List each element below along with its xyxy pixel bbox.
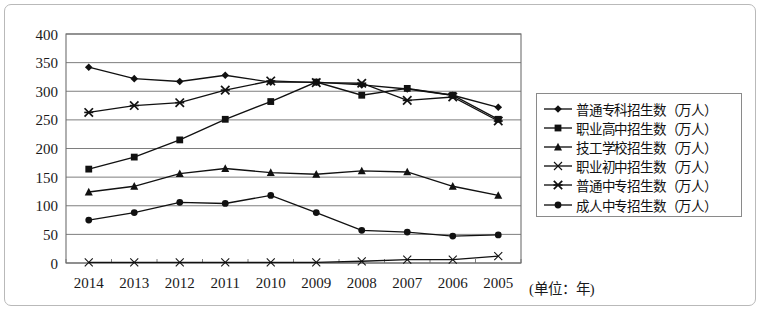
marker-circle	[313, 209, 320, 216]
legend-item-label: 成人中专招生数（万人）	[576, 195, 717, 215]
legend-item-2[interactable]: 职业高中招生数（万人）	[543, 118, 737, 137]
legend-marker-square-icon	[543, 121, 573, 135]
marker-square	[404, 85, 411, 92]
marker-square	[555, 124, 562, 131]
marker-square	[222, 116, 229, 123]
marker-square	[85, 166, 92, 173]
legend-marker-asterisk-icon	[543, 178, 573, 192]
y-tick-label: 150	[36, 170, 59, 186]
x-tick-label: 2009	[301, 275, 331, 291]
x-tick-label: 2012	[165, 275, 195, 291]
y-tick-label: 50	[43, 227, 58, 243]
x-axis-unit-caption: (单位：年)	[529, 277, 595, 298]
marker-circle	[404, 229, 411, 236]
x-tick-label: 2008	[347, 275, 377, 291]
x-tick-label: 2007	[392, 275, 423, 291]
y-tick-label: 300	[36, 84, 59, 100]
y-axis-tick-labels: 050100150200250300350400	[36, 27, 59, 272]
y-tick-label: 350	[36, 55, 59, 71]
x-tick-label: 2014	[74, 275, 105, 291]
x-tick-label: 2013	[119, 275, 149, 291]
legend-item-label: 普通中专招生数（万人）	[576, 175, 717, 195]
y-tick-label: 250	[36, 112, 59, 128]
legend-marker-triangle-icon	[543, 140, 573, 154]
marker-circle	[267, 192, 274, 199]
legend-item-label: 职业初中招生数（万人）	[576, 156, 717, 176]
legend-marker-diamond-icon	[543, 102, 573, 116]
marker-square	[267, 98, 274, 105]
marker-square	[131, 154, 138, 161]
legend-item-label: 技工学校招生数（万人）	[576, 137, 717, 157]
chart-legend: 普通专科招生数（万人）职业高中招生数（万人）技工学校招生数（万人）职业初中招生数…	[536, 93, 742, 217]
legend-item-1[interactable]: 普通专科招生数（万人）	[543, 99, 737, 118]
x-tick-label: 2005	[483, 275, 513, 291]
marker-circle	[449, 233, 456, 240]
marker-square	[358, 92, 365, 99]
chart-screenshot: 0501001502002503003504002014201320122011…	[0, 0, 764, 314]
y-tick-label: 100	[36, 198, 59, 214]
x-tick-label: 2010	[256, 275, 286, 291]
marker-circle	[85, 217, 92, 224]
legend-item-5[interactable]: 普通中专招生数（万人）	[543, 176, 737, 195]
legend-item-6[interactable]: 成人中专招生数（万人）	[543, 195, 737, 214]
y-tick-label: 200	[36, 141, 59, 157]
y-tick-label: 400	[36, 27, 59, 43]
legend-marker-x-thin-icon	[543, 159, 573, 173]
x-tick-label: 2011	[211, 275, 240, 291]
legend-item-label: 普通专科招生数（万人）	[576, 99, 717, 119]
y-tick-label: 0	[51, 256, 59, 272]
marker-circle	[495, 232, 502, 239]
legend-item-label: 职业高中招生数（万人）	[576, 118, 717, 138]
legend-item-4[interactable]: 职业初中招生数（万人）	[543, 157, 737, 176]
x-axis-tick-labels: 2014201320122011201020092008200720062005	[74, 275, 514, 291]
marker-diamond	[554, 105, 562, 113]
legend-item-3[interactable]: 技工学校招生数（万人）	[543, 137, 737, 156]
marker-square	[176, 137, 183, 144]
x-tick-label: 2006	[438, 275, 469, 291]
marker-circle	[222, 200, 229, 207]
marker-circle	[176, 199, 183, 206]
marker-circle	[555, 201, 562, 208]
marker-circle	[131, 209, 138, 216]
legend-marker-circle-icon	[543, 198, 573, 212]
marker-circle	[358, 227, 365, 234]
